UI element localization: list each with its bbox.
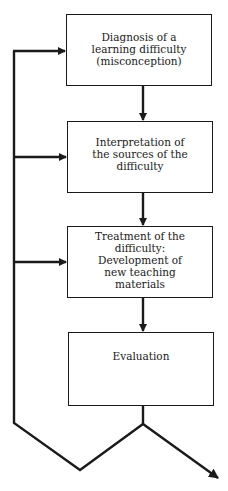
step-diagnosis-label: Diagnosis of a learning difficulty (misc… [92, 31, 187, 67]
step-evaluation-box: Evaluation [68, 332, 214, 406]
exit-arrow [143, 424, 218, 478]
step-evaluation-label: Evaluation [113, 350, 170, 362]
step-interpretation-box: Interpretation of the sources of the dif… [67, 121, 213, 193]
step-treatment-label: Treatment of the difficulty: Development… [95, 230, 185, 290]
step-treatment-box: Treatment of the difficulty: Development… [67, 226, 213, 298]
step-interpretation-label: Interpretation of the sources of the dif… [92, 136, 188, 172]
step-diagnosis-box: Diagnosis of a learning difficulty (misc… [66, 14, 212, 86]
